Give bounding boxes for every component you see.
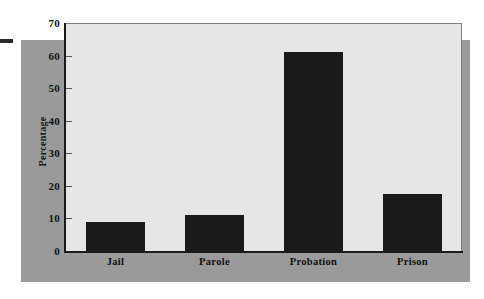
- y-tick-label: 20: [36, 181, 60, 192]
- y-tick-mark: [66, 218, 72, 219]
- y-tick-mark: [66, 153, 72, 154]
- y-tick-label-text: 30: [36, 148, 60, 159]
- bar-jail: [86, 222, 145, 251]
- y-tick-label-text: 0: [36, 246, 60, 257]
- y-tick-label-text: 10: [36, 213, 60, 224]
- bar-prison: [383, 194, 442, 251]
- y-tick-label: 50: [36, 83, 60, 94]
- x-tick-label-parole: Parole: [165, 256, 264, 267]
- x-tick-label-prison: Prison: [363, 256, 462, 267]
- y-tick-label-text: 70: [36, 18, 60, 29]
- y-tick-mark: [66, 121, 72, 122]
- y-tick-mark: [66, 88, 72, 89]
- y-tick-label: 0: [36, 246, 60, 257]
- bar-parole: [185, 215, 244, 251]
- y-tick-label-text: 50: [36, 83, 60, 94]
- y-tick-label: 60: [36, 51, 60, 62]
- y-tick-label: 70: [36, 18, 60, 29]
- page-edge-artifact: [0, 39, 13, 43]
- y-tick-mark: [66, 186, 72, 187]
- y-tick-label: 10: [36, 213, 60, 224]
- y-tick-label: 40: [36, 116, 60, 127]
- x-tick-label-probation: Probation: [264, 256, 363, 267]
- y-tick-label-text: 20: [36, 181, 60, 192]
- y-tick-label: 30: [36, 148, 60, 159]
- y-tick-label-text: 40: [36, 116, 60, 127]
- y-tick-mark: [66, 56, 72, 57]
- x-tick-label-jail: Jail: [66, 256, 165, 267]
- x-axis-line: [64, 251, 463, 253]
- bar-probation: [284, 52, 343, 251]
- y-tick-label-text: 60: [36, 51, 60, 62]
- y-axis-title: Percentage: [37, 94, 48, 190]
